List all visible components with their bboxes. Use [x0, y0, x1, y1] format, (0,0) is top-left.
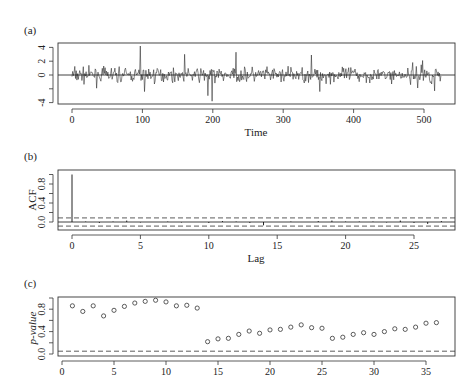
y-tick-label: 0.0 — [36, 348, 47, 361]
x-tick-label: 100 — [135, 114, 150, 125]
x-axis-label-lag: Lag — [247, 252, 265, 264]
pvalue-point — [122, 304, 126, 308]
y-axis-a: -4024 — [36, 45, 53, 107]
panel-label-a: (a) — [24, 24, 37, 37]
pvalue-point — [330, 336, 334, 340]
x-tick-label: 15 — [272, 240, 282, 251]
pvalue-point — [341, 335, 345, 339]
pvalue-point — [278, 327, 282, 331]
plot-frame-b — [58, 170, 455, 230]
x-tick-label: 200 — [205, 114, 220, 125]
x-tick-label: 5 — [112, 366, 117, 376]
x-tick-label: 300 — [276, 114, 291, 125]
pvalue-point — [237, 332, 241, 336]
x-tick-label: 20 — [265, 366, 275, 376]
pvalue-point — [91, 304, 95, 308]
pvalue-point — [372, 332, 376, 336]
pvalue-point — [434, 321, 438, 325]
y-tick-label: -4 — [36, 98, 47, 106]
x-tick-label: 0 — [70, 240, 75, 251]
y-tick-label: 4 — [36, 45, 47, 50]
y-tick-label: 0 — [36, 73, 47, 78]
x-tick-label: 35 — [421, 366, 431, 376]
pvalue-point — [258, 331, 262, 335]
pvalue-point — [247, 329, 251, 333]
x-tick-label: 25 — [409, 240, 419, 251]
pvalue-point — [299, 323, 303, 327]
pvalue-points — [70, 298, 438, 344]
x-tick-label: 0 — [60, 366, 65, 376]
figure: (a) (b) (c) 0100200300400500 -4024 Time … — [0, 0, 476, 376]
pvalue-point — [143, 299, 147, 303]
acf-panel: 0510152025 0.00.40.8 Lag ACF — [26, 170, 455, 264]
x-axis-c: 05101520253035 — [60, 361, 432, 376]
pvalue-point — [351, 332, 355, 336]
x-axis-label-time: Time — [245, 126, 268, 138]
y-axis-c: 0.00.40.8 — [36, 298, 53, 360]
y-tick-label: 0.0 — [36, 216, 47, 229]
pvalue-point — [414, 325, 418, 329]
pvalue-point — [403, 327, 407, 331]
time-series-line — [72, 46, 441, 101]
pvalue-point — [310, 326, 314, 330]
x-tick-label: 0 — [70, 114, 75, 125]
x-tick-label: 10 — [204, 240, 214, 251]
pvalue-point — [226, 336, 230, 340]
x-tick-label: 15 — [213, 366, 223, 376]
pvalue-point — [70, 304, 74, 308]
time-series-panel: 0100200300400500 -4024 Time — [36, 43, 455, 138]
acf-bars — [72, 175, 441, 226]
x-tick-label: 30 — [369, 366, 379, 376]
pvalue-point — [320, 326, 324, 330]
pvalue-point — [382, 330, 386, 334]
pvalue-point — [424, 321, 428, 325]
y-tick-label: 0.8 — [36, 178, 47, 191]
x-tick-label: 500 — [417, 114, 432, 125]
x-tick-label: 25 — [317, 366, 327, 376]
pvalue-point — [112, 308, 116, 312]
x-tick-label: 5 — [138, 240, 143, 251]
panel-label-c: (c) — [24, 277, 37, 290]
pvalue-point — [174, 304, 178, 308]
pvalue-point — [81, 309, 85, 313]
y-axis-label-acf: ACF — [26, 189, 38, 210]
x-axis-b: 0510152025 — [70, 235, 420, 251]
pvalue-point — [133, 301, 137, 305]
pvalue-point — [206, 340, 210, 344]
pvalue-point — [268, 328, 272, 332]
panel-label-b: (b) — [24, 150, 37, 163]
pvalue-point — [393, 327, 397, 331]
pvalue-point — [216, 337, 220, 341]
pvalue-point — [154, 298, 158, 302]
y-axis-label-pvalue: p-value — [26, 311, 38, 345]
pvalue-point — [164, 300, 168, 304]
x-axis-a: 0100200300400500 — [70, 109, 432, 125]
pvalue-point — [362, 331, 366, 335]
x-tick-label: 400 — [346, 114, 361, 125]
pvalue-point — [102, 314, 106, 318]
y-axis-b: 0.00.40.8 — [36, 175, 53, 229]
pvalue-panel: 05101520253035 0.00.40.8 p-value — [26, 297, 455, 376]
x-tick-label: 20 — [341, 240, 351, 251]
pvalue-point — [195, 306, 199, 310]
pvalue-point — [185, 303, 189, 307]
y-tick-label: 2 — [36, 59, 47, 64]
x-tick-label: 10 — [161, 366, 171, 376]
pvalue-point — [289, 325, 293, 329]
